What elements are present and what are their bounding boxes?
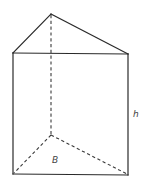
bottom-edge-front — [13, 174, 128, 175]
triangular-prism-diagram: h B — [0, 0, 144, 186]
hidden-base-edge-right — [51, 135, 127, 174]
top-face — [13, 14, 128, 54]
hidden-edges — [14, 15, 127, 174]
height-label: h — [133, 109, 139, 119]
hidden-base-edge-left — [14, 135, 51, 173]
top-edge-left — [13, 14, 51, 53]
top-edge-right — [51, 14, 128, 54]
base-label: B — [52, 155, 58, 165]
top-edge-front — [13, 53, 128, 54]
